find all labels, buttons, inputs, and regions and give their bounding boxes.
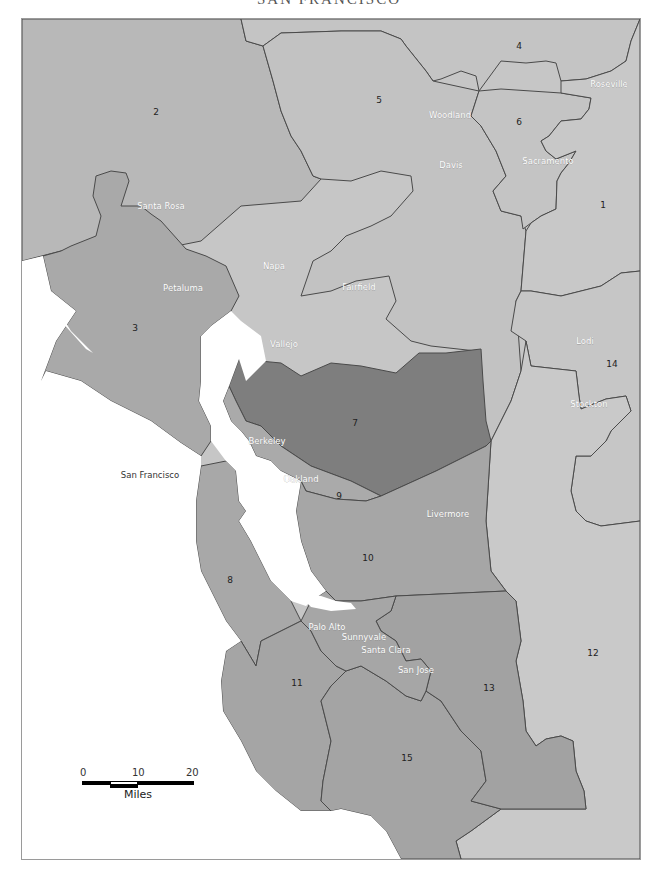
scale-tick-0: 0 bbox=[80, 767, 86, 778]
district-label-11: 11 bbox=[291, 678, 302, 688]
district-label-14: 14 bbox=[606, 359, 618, 369]
district-label-3: 3 bbox=[132, 323, 138, 333]
district-label-4: 4 bbox=[516, 41, 522, 51]
city-san-francisco: San Francisco bbox=[121, 470, 179, 480]
city-woodland: Woodland bbox=[429, 110, 471, 120]
city-sunnyvale: Sunnyvale bbox=[342, 632, 386, 642]
district-label-7: 7 bbox=[352, 418, 358, 428]
district-label-13: 13 bbox=[483, 683, 494, 693]
city-vallejo: Vallejo bbox=[270, 339, 298, 349]
city-lodi: Lodi bbox=[576, 336, 594, 346]
scale-tick-10: 10 bbox=[132, 767, 145, 778]
district-map: 2 3 4 5 6 1 7 14 9 10 8 11 12 13 15 Rose… bbox=[22, 19, 640, 859]
scale-segment-3 bbox=[138, 781, 194, 785]
city-stockton: Stockton bbox=[570, 399, 607, 409]
map-frame: 2 3 4 5 6 1 7 14 9 10 8 11 12 13 15 Rose… bbox=[21, 18, 641, 860]
district-label-15: 15 bbox=[401, 753, 412, 763]
district-label-2: 2 bbox=[153, 107, 159, 117]
district-label-10: 10 bbox=[362, 553, 374, 563]
city-santa-rosa: Santa Rosa bbox=[137, 201, 185, 211]
scale-bar: 0 10 20 Miles bbox=[80, 767, 220, 807]
city-palo-alto: Palo Alto bbox=[309, 622, 346, 632]
city-sacramento: Sacramento bbox=[522, 156, 573, 166]
district-label-8: 8 bbox=[227, 575, 233, 585]
city-livermore: Livermore bbox=[427, 509, 470, 519]
map-title: SAN FRANCISCO bbox=[0, 0, 658, 8]
city-petaluma: Petaluma bbox=[163, 283, 203, 293]
scale-segment-1 bbox=[82, 781, 110, 785]
district-label-5: 5 bbox=[376, 95, 382, 105]
district-label-1: 1 bbox=[600, 200, 606, 210]
city-oakland: Oakland bbox=[283, 474, 318, 484]
district-label-12: 12 bbox=[587, 648, 598, 658]
city-berkeley: Berkeley bbox=[248, 436, 285, 446]
district-label-6: 6 bbox=[516, 117, 522, 127]
scale-unit-label: Miles bbox=[124, 788, 152, 801]
scale-tick-20: 20 bbox=[186, 767, 199, 778]
city-san-jose: San Jose bbox=[398, 665, 434, 675]
city-davis: Davis bbox=[439, 160, 463, 170]
city-napa: Napa bbox=[263, 261, 285, 271]
district-label-9: 9 bbox=[336, 491, 342, 501]
city-fairfield: Fairfield bbox=[342, 282, 376, 292]
city-roseville: Roseville bbox=[590, 79, 628, 89]
city-santa-clara: Santa Clara bbox=[361, 645, 410, 655]
